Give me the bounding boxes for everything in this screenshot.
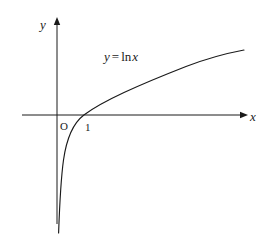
equation-lhs: y xyxy=(104,49,110,64)
plot-canvas xyxy=(0,0,271,236)
equation-function: ln xyxy=(121,49,132,64)
x-axis-group xyxy=(22,112,248,118)
function-graph-figure: y x O 1 y=lnx xyxy=(0,0,271,236)
equation-annotation: y=lnx xyxy=(104,50,138,63)
log-curve xyxy=(59,50,244,233)
x-axis-label: x xyxy=(250,110,256,123)
equation-argument: x xyxy=(132,49,138,64)
origin-label: O xyxy=(60,121,68,132)
equation-operator: = xyxy=(110,49,121,64)
y-axis-arrowhead xyxy=(54,17,60,25)
y-axis-label: y xyxy=(40,18,46,31)
x-tick-label-1: 1 xyxy=(85,122,91,133)
x-axis-arrowhead xyxy=(240,112,248,118)
